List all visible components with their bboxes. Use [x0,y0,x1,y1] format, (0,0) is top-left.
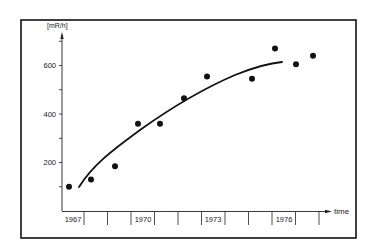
chart-frame [21,20,356,238]
y-tick-label: 400 [43,110,56,119]
y-axis-arrow-icon [60,32,63,39]
x-axis-label: time [334,207,350,216]
data-point [249,76,255,82]
data-point [272,46,278,52]
y-tick-label: 200 [43,158,56,167]
x-tick-label: 1973 [205,215,222,224]
data-point [204,73,210,79]
x-tick-label: 1967 [65,215,82,224]
chart: 200400600 [mR/h] 1967197019731976 time [0,0,375,251]
y-tick-label: 600 [43,61,56,70]
data-point [88,176,94,182]
data-points [66,46,316,190]
x-tick-label: 1976 [276,215,293,224]
x-axis-arrow-icon [325,210,332,213]
x-axis: 1967197019731976 time [62,207,350,225]
data-point [135,121,141,127]
data-point [181,95,187,101]
data-point [66,184,72,190]
x-tick-label: 1970 [135,215,152,224]
y-axis-label: [mR/h] [47,22,68,30]
data-point [157,121,163,127]
data-point [112,163,118,169]
data-point [310,53,316,59]
y-axis: 200400600 [mR/h] [43,22,67,211]
data-point [293,61,299,67]
